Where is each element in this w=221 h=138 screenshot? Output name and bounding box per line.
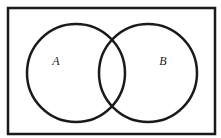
set-b-label: B <box>159 54 167 68</box>
set-b-circle <box>99 24 197 122</box>
set-a-circle <box>27 24 125 122</box>
set-a-label: A <box>51 54 60 68</box>
venn-diagram: A B <box>0 0 221 138</box>
universal-set-rectangle <box>8 8 215 134</box>
